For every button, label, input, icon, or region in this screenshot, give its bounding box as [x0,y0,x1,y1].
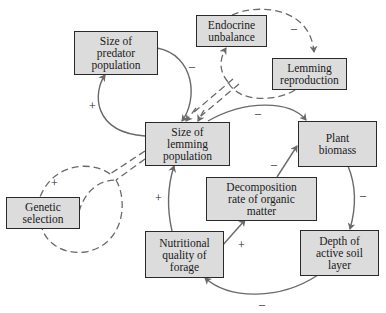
dashed-stem-a [193,79,233,113]
sign-lemming-to-predator: + [89,99,96,114]
dashed-stem-b [201,84,239,116]
sign-decomposition-to-plant: – [271,157,277,172]
arrow-decomposition-to-plant [277,146,297,177]
node-lemming-population: Size of lemming population [145,122,230,166]
dashed-arrow-to-endocrine [221,48,228,82]
node-lemming-reproduction: Lemming reproduction [272,58,347,90]
node-soil-depth: Depth of active soil layer [300,230,379,276]
sign-endocrine-to-reproduction: – [291,21,297,36]
node-decomposition-rate: Decomposition rate of organic matter [206,177,317,221]
sign-genetic-loop: + [51,176,58,191]
sign-nutrition-to-lemming: + [155,191,162,206]
arrow-nutrition-to-lemming [168,166,174,231]
node-predator-population: Size of predator population [74,31,158,75]
sign-soil-to-nutrition: – [259,297,265,312]
node-genetic-selection: Genetic selection [6,197,80,229]
dashed-arrow-into-lemming-b [198,110,204,121]
node-nutritional-quality: Nutritional quality of forage [145,231,224,278]
arrow-lemming-to-predator [98,75,145,136]
sign-lemming-to-plant: – [255,106,261,121]
sign-plant-to-soil: – [360,188,366,203]
dashed-stem-d [116,159,145,180]
sign-predator-to-lemming: – [189,59,195,74]
sign-nutrition-to-decomposition: + [238,238,245,253]
causal-loop-diagram: Size of predator population Endocrine un… [0,0,386,313]
arrow-predator-to-lemming [157,48,191,121]
node-endocrine-unbalance: Endocrine unbalance [196,15,267,47]
node-plant-biomass: Plant biomass [298,121,377,167]
arrow-plant-to-soil [348,166,354,229]
